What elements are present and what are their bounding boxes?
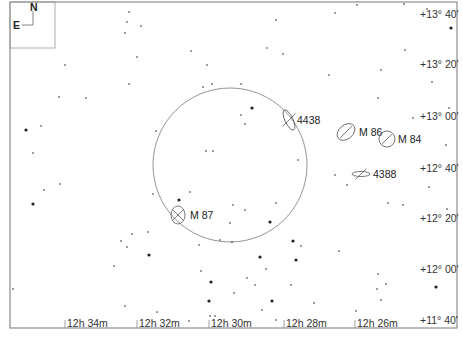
compass-arms (22, 11, 33, 25)
right-ascension-labels: 12h 34m12h 32m12h 30m12h 28m12h 26m (65, 317, 398, 329)
star (376, 288, 378, 290)
star (31, 202, 34, 205)
star (233, 292, 235, 294)
galaxy-label: M 86 (359, 126, 383, 138)
star (254, 284, 256, 286)
star (297, 159, 299, 161)
star (275, 19, 277, 21)
star (188, 320, 190, 322)
star (412, 117, 414, 119)
star (212, 150, 214, 152)
star (294, 258, 297, 261)
dec-label: +13° 40' (420, 8, 459, 20)
star (206, 64, 208, 66)
compass-rose: N E (10, 1, 55, 48)
star (258, 255, 261, 258)
ra-label: 12h 28m (286, 317, 327, 329)
star (126, 246, 128, 248)
star (211, 83, 213, 85)
star (377, 273, 379, 275)
field-of-view-circle (153, 88, 307, 242)
star (40, 125, 42, 127)
star (202, 86, 204, 88)
star (449, 26, 452, 29)
north-label: N (30, 1, 38, 13)
star (190, 50, 192, 52)
star (403, 3, 405, 5)
galaxy-label: 4438 (297, 114, 321, 126)
star (346, 184, 348, 186)
star (244, 123, 246, 125)
star (270, 299, 273, 302)
star (140, 25, 142, 27)
star (355, 310, 357, 312)
star (240, 114, 242, 116)
star (147, 231, 149, 233)
galaxy-label: M 87 (190, 209, 214, 221)
star (128, 83, 130, 85)
star (147, 253, 150, 256)
galaxy-4438[interactable]: 4438 (281, 108, 321, 131)
star (240, 83, 242, 85)
star (402, 204, 404, 206)
dec-label: +13° 00' (420, 110, 459, 122)
star (246, 277, 248, 279)
star (231, 241, 233, 243)
star (43, 189, 45, 191)
star (431, 81, 433, 83)
star (313, 302, 315, 304)
star (268, 220, 271, 223)
star (85, 97, 87, 99)
star (356, 4, 358, 6)
star (328, 74, 330, 76)
dec-label: +11° 40' (420, 314, 458, 326)
star (156, 311, 158, 313)
galaxy-4388[interactable]: 4388 (352, 168, 397, 180)
star (380, 69, 382, 71)
star (282, 53, 284, 55)
star (209, 280, 212, 283)
star-field (12, 3, 452, 322)
star (229, 222, 231, 224)
star (266, 47, 268, 49)
star (177, 198, 180, 201)
star (434, 285, 437, 288)
star (124, 32, 126, 34)
star (58, 96, 60, 98)
star (404, 49, 406, 51)
star (126, 21, 128, 23)
dec-label: +13° 20' (420, 58, 459, 70)
star (59, 183, 61, 185)
galaxy-axis-line (382, 134, 392, 144)
star (12, 288, 14, 290)
star (152, 193, 154, 195)
galaxy-label: 4388 (373, 168, 397, 180)
east-label: E (13, 19, 20, 31)
star (113, 265, 115, 267)
galaxy-m84[interactable]: M 84 (379, 131, 422, 147)
ra-label: 12h 32m (139, 317, 180, 329)
dec-label: +12° 20' (420, 212, 459, 224)
star (189, 191, 191, 193)
star (131, 233, 133, 235)
star (64, 64, 66, 66)
star (200, 270, 202, 272)
star (290, 284, 292, 286)
star (136, 56, 138, 58)
star (219, 239, 221, 241)
star (124, 305, 126, 307)
star (207, 299, 210, 302)
galaxy-axis-line (356, 169, 367, 180)
ra-label: 12h 26m (357, 317, 398, 329)
star (275, 319, 277, 321)
star (445, 144, 447, 146)
star (198, 244, 200, 246)
star (265, 268, 267, 270)
star (380, 299, 382, 301)
star (385, 283, 387, 285)
star (205, 150, 207, 152)
ra-label: 12h 34m (67, 317, 108, 329)
star (261, 309, 263, 311)
chart-frame (10, 2, 457, 328)
galaxy-m86[interactable]: M 86 (334, 120, 383, 144)
